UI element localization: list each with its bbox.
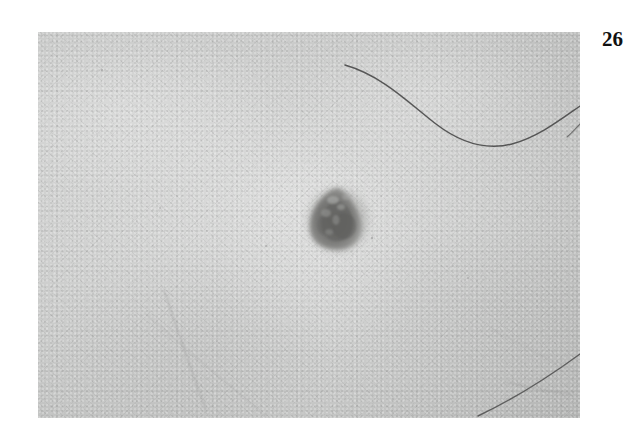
lesion-highlight-fleck (321, 209, 331, 217)
page-number: 26 (602, 27, 623, 51)
lesion-highlight-fleck (325, 229, 333, 235)
pigmented-lesion-svg (300, 180, 376, 258)
lesion-highlight-fleck (327, 196, 339, 204)
lesion-highlight-fleck (333, 215, 340, 225)
clinical-skin-photograph (38, 32, 580, 418)
pigmented-lesion (300, 180, 376, 258)
lesion-highlight-fleck (337, 204, 345, 210)
lesion-highlight-fleck (342, 194, 350, 200)
page-canvas: 26 (0, 0, 630, 438)
